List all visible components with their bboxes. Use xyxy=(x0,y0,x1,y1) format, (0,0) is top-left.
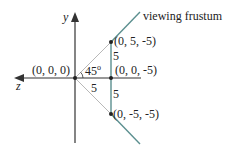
angle-arc xyxy=(81,72,83,78)
origin-label: (0, 0, 0) xyxy=(32,64,70,76)
y-axis-label: y xyxy=(63,11,68,23)
lower-vertical-distance-label: 5 xyxy=(113,88,119,100)
top-point-label: (0, 5, -5) xyxy=(114,35,156,47)
upper-vertical-distance-label: 5 xyxy=(113,50,119,62)
center-point xyxy=(109,76,113,80)
viewing-frustum-label: viewing frustum xyxy=(143,10,222,22)
top-point xyxy=(109,40,113,44)
y-axis-arrow-icon xyxy=(71,12,79,22)
horizontal-distance-label: 5 xyxy=(91,82,97,94)
center-point-label: (0, 0, -5) xyxy=(115,64,157,76)
bottom-point-label: (0, -5, -5) xyxy=(113,108,159,120)
z-axis-label: z xyxy=(16,80,21,92)
viewing-frustum-diagram: viewing frustum y z (0, 0, 0) (0, 5, -5)… xyxy=(0,0,238,153)
origin-point xyxy=(73,76,77,80)
degree-mark: o xyxy=(97,63,101,72)
angle-label: 45o xyxy=(85,64,101,77)
angle-value: 45 xyxy=(85,64,97,78)
